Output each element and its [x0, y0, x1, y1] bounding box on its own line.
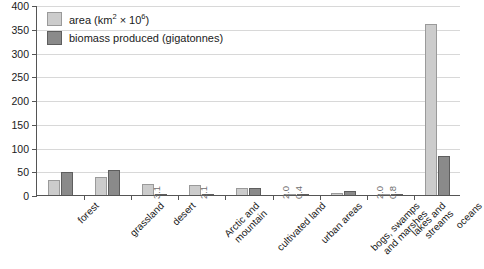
bar-biomass: 2.1 [202, 194, 214, 196]
x-axis-tick [178, 195, 179, 200]
bar-area [236, 188, 248, 195]
y-axis-label: 100 [11, 143, 29, 154]
y-axis-label: 250 [11, 72, 29, 83]
bar-value-label: 0.8 [387, 186, 397, 199]
y-axis-label: 0 [23, 191, 29, 202]
x-axis-category-label: cultivated land [275, 200, 328, 253]
bar-biomass [438, 156, 450, 195]
y-axis-label: 150 [11, 120, 29, 131]
legend-label-area: area (km2 × 106) [69, 13, 149, 26]
legend-item-area: area (km2 × 106) [47, 12, 223, 26]
x-axis-tick [225, 195, 226, 200]
bar-biomass: 0.4 [297, 194, 309, 196]
x-axis-category-label: grassland [127, 200, 165, 238]
y-axis-label: 50 [17, 167, 29, 178]
bar-value-label: 2.0 [280, 186, 290, 199]
y-axis-label: 350 [11, 25, 29, 36]
y-axis-label: 400 [11, 1, 29, 12]
x-axis-category-label: forest [75, 200, 100, 225]
legend-swatch-area [47, 12, 62, 26]
bar-area [425, 24, 437, 195]
bar-group [320, 6, 367, 195]
y-axis-label: 300 [11, 48, 29, 59]
bar-group [414, 6, 461, 195]
x-axis-tick [273, 195, 274, 200]
bar-biomass [249, 188, 261, 195]
legend-label-biomass: biomass produced (gigatonnes) [69, 33, 223, 44]
x-axis-category-label: oceans [454, 200, 484, 231]
bar-area [95, 177, 107, 195]
bar-biomass: 3.1 [155, 194, 167, 196]
legend-item-biomass: biomass produced (gigatonnes) [47, 31, 223, 45]
bar-group: 2.00.4 [273, 6, 320, 195]
bar-area [48, 180, 60, 195]
bar-biomass [61, 172, 73, 195]
bar-value-label: 3.1 [152, 186, 162, 199]
bar-value-label: 0.4 [293, 186, 303, 199]
y-axis-label: 200 [11, 96, 29, 107]
bar-group [225, 6, 272, 195]
legend-swatch-biomass [47, 31, 62, 45]
x-axis-tick [84, 195, 85, 200]
y-axis-tick [32, 196, 37, 197]
bar-biomass [344, 191, 356, 195]
chart-legend: area (km2 × 106) biomass produced (gigat… [47, 12, 223, 45]
x-axis-tick [131, 195, 132, 200]
bar-group: 2.00.8 [367, 6, 414, 195]
bar-value-label: 2.0 [374, 186, 384, 199]
bar-area [331, 193, 343, 195]
x-axis-category-label: Arctic and mountain [222, 200, 269, 247]
bar-biomass [108, 170, 120, 195]
x-axis-category-label: desert [170, 200, 197, 227]
bar-value-label: 2.1 [199, 186, 209, 199]
x-axis-tick [367, 195, 368, 200]
bar-biomass: 0.8 [391, 194, 403, 196]
